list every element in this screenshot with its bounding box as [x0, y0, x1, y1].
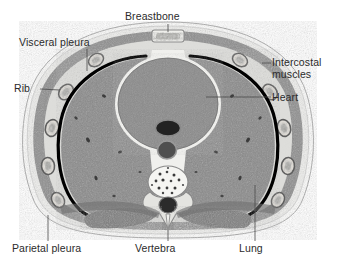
vertebral-body — [148, 166, 188, 198]
label-intercostal-muscles: Intercostal muscles — [272, 57, 332, 80]
label-vertebra: Vertebra — [135, 243, 176, 255]
label-lung: Lung — [239, 243, 263, 255]
label-intercostal-muscles-line1: Intercostal — [272, 56, 322, 68]
aorta — [158, 141, 177, 159]
label-heart: Heart — [272, 92, 298, 104]
label-intercostal-muscles-line2: muscles — [272, 68, 311, 80]
esophagus — [156, 120, 181, 136]
label-visceral-pleura: Visceral pleura — [19, 37, 90, 49]
rib — [281, 157, 295, 175]
label-breastbone: Breastbone — [125, 11, 180, 23]
label-rib: Rib — [14, 83, 30, 95]
heart — [115, 55, 221, 153]
label-parietal-pleura: Parietal pleura — [12, 243, 81, 255]
anatomy-figure: Breastbone Visceral pleura Rib Intercost… — [0, 0, 337, 265]
rib — [41, 157, 55, 175]
spinal-canal — [159, 197, 177, 213]
